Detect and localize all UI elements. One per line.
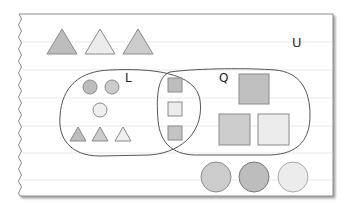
circle-dark [83,80,97,94]
circle-dark [239,162,269,192]
l-only-triangles [70,127,131,141]
venn-diagram-figure: U L Q [0,0,348,216]
circle-light [278,162,308,192]
set-l-label: L [125,71,132,85]
circle-light [93,103,107,117]
square-dark [168,126,182,140]
circle-mid [201,162,231,192]
outside-top-triangles [47,29,153,54]
square-dark [168,78,182,92]
universe-label: U [292,35,302,50]
square-mid [219,114,250,145]
square-light [258,114,289,145]
outside-bottom-circles [201,162,308,192]
set-q-label: Q [219,71,228,85]
intersection-squares [168,78,182,140]
square-light [168,102,182,116]
square-dark [239,74,269,104]
circle-mid [105,80,119,94]
